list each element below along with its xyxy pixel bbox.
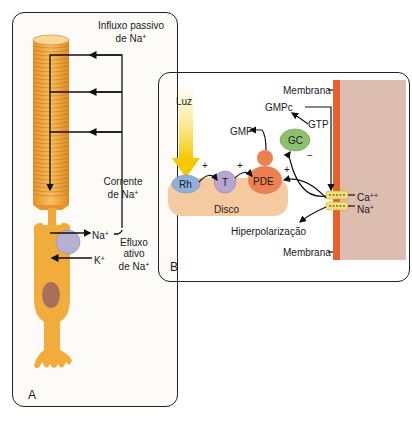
membrane-bottom-label: Membrana: [283, 247, 331, 258]
light-label: Luz: [176, 96, 192, 107]
plus-sign-pde: +: [284, 164, 290, 175]
disc-label: Disco: [214, 204, 239, 215]
na-ion-label-b: Na+: [357, 202, 374, 215]
panel-b-letter: B: [170, 262, 178, 273]
na-ion-label: Na+: [92, 228, 109, 241]
t-label: T: [222, 177, 228, 188]
plus-sign-rh-t: +: [202, 160, 208, 171]
membrane-top-label: Membrana: [283, 85, 331, 96]
rod-inner-segment: [34, 208, 80, 368]
gtp-label: GTP: [308, 119, 329, 130]
gmpc-label: GMPc: [265, 102, 293, 113]
plus-sign-t-pde: +: [237, 160, 243, 171]
hyperpolarization-label: Hiperpolarização: [231, 226, 306, 237]
panel-a-letter: A: [28, 390, 36, 401]
efflux-label: Efluxo ativo de Na+: [114, 237, 154, 272]
current-label: Corrente de Na+: [98, 176, 148, 200]
rh-label: Rh: [179, 179, 192, 190]
rod-outer-segment: [33, 35, 69, 210]
gc-label: GC: [288, 135, 303, 146]
influx-label: Influxo passivo de Na+: [86, 20, 176, 44]
minus-sign-gc: −: [307, 150, 313, 161]
pde-label: PDE: [253, 176, 274, 187]
gmp-label: GMP: [230, 126, 253, 137]
k-ion-label: K+: [94, 253, 105, 266]
